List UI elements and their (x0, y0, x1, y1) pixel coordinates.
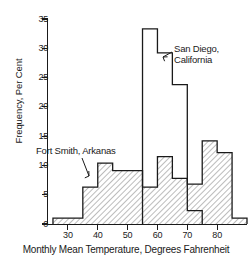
x-tick-label-30: 30 (54, 231, 82, 240)
y-tick-label-15: 15 (0, 132, 48, 141)
y-axis-title: Frequency, Per Cent (14, 41, 24, 161)
y-tick-label-25: 25 (0, 73, 48, 82)
annotation-san-diego: San Diego, California (174, 44, 219, 65)
annotation-fort-smith: Fort Smith, Arkanas (36, 146, 116, 157)
x-tick-label-60: 60 (143, 231, 171, 240)
y-tick-label-10: 10 (0, 161, 48, 170)
y-tick-label-30: 30 (0, 44, 48, 53)
x-tick-label-40: 40 (84, 231, 112, 240)
x-axis-title: Monthly Mean Temperature, Degrees Fahren… (0, 244, 252, 255)
x-tick-label-80: 80 (203, 231, 231, 240)
histogram-chart: 05101520253035 304050607080 Frequency, P… (0, 0, 252, 263)
y-tick-label-20: 20 (0, 102, 48, 111)
y-tick-label-35: 35 (0, 15, 48, 24)
y-tick-label-0: 0 (0, 220, 48, 229)
x-tick-label-70: 70 (173, 231, 201, 240)
y-tick-label-5: 5 (0, 190, 48, 199)
x-tick-label-50: 50 (114, 231, 142, 240)
